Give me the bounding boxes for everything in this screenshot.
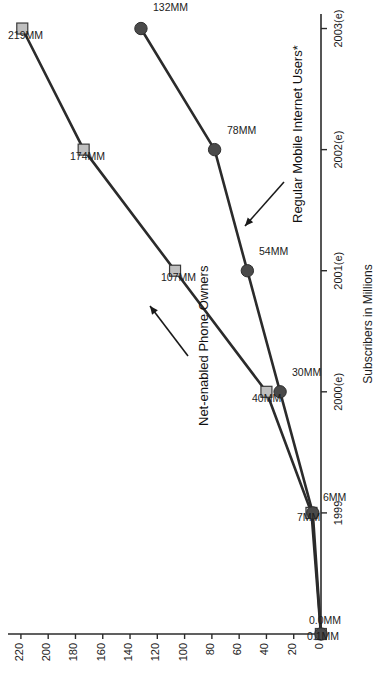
y-tick-label: 80 (204, 643, 216, 678)
series-annotation-regular-mobile-internet-users: Regular Mobile Internet Users* (290, 45, 305, 223)
data-point-marker (241, 265, 253, 277)
x-tick-label: 2003(e) (332, 0, 344, 63)
y-tick-label: 0 (313, 643, 325, 678)
rotated-figure: 020406080100120140160180200220 19992000(… (0, 0, 383, 678)
point-value-label: 7MM (297, 511, 320, 523)
x-tick-label: 2000(e) (332, 358, 344, 426)
point-value-label: 174MM (70, 150, 105, 162)
point-value-label: 107MM (161, 271, 196, 283)
y-tick-label: 40 (258, 643, 270, 678)
y-tick-label: 60 (231, 643, 243, 678)
series-line-0 (22, 29, 321, 635)
plot-area: 020406080100120140160180200220 19992000(… (0, 0, 383, 678)
point-value-label: 132MM (153, 1, 188, 13)
point-value-label: 30MM (292, 366, 321, 378)
y-tick-label: 20 (286, 643, 298, 678)
annotation-arrow-net-enabled (150, 306, 188, 356)
point-value-label: 219MM (8, 29, 43, 41)
y-tick-label: 180 (67, 643, 79, 678)
series (17, 22, 327, 640)
point-value-label: 6MM (323, 491, 346, 503)
point-value-label: 78MM (227, 124, 256, 136)
y-tick-label: 200 (40, 643, 52, 678)
chart-svg (0, 0, 383, 678)
point-value-label: 0.0MM (309, 614, 341, 626)
axes (8, 14, 327, 639)
x-tick-label: 2001(e) (332, 237, 344, 305)
y-axis-title: Subscribers in Millions (361, 14, 375, 634)
y-tick-label: 220 (13, 643, 25, 678)
point-value-label: 40MM (252, 392, 281, 404)
chart-page: 020406080100120140160180200220 19992000(… (0, 0, 383, 678)
y-tick-label: 100 (177, 643, 189, 678)
data-point-marker (135, 22, 147, 34)
annotation-arrow-mobile-internet (245, 182, 284, 226)
y-tick-label: 140 (122, 643, 134, 678)
y-tick-label: 160 (95, 643, 107, 678)
x-tick-label: 1999 (332, 479, 344, 547)
y-tick-label: 120 (149, 643, 161, 678)
x-tick-label: 2002(e) (332, 116, 344, 184)
point-value-label: 54MM (259, 245, 288, 257)
point-value-label: 0.1MM (307, 630, 339, 642)
data-point-marker (208, 143, 220, 155)
series-annotation-net-enabled-phone-owners: Net-enabled Phone Owners (196, 266, 211, 426)
